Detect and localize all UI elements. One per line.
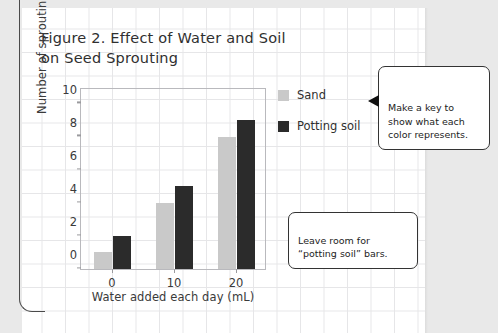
y-tick-label: 2	[70, 215, 77, 229]
figure-title: Figure 2. Effect of Water and Soil on Se…	[41, 28, 291, 68]
plot-area: 0246810 01020	[80, 88, 266, 270]
bar-group	[156, 89, 193, 269]
bar-series-container	[81, 89, 265, 269]
bar-potting-soil	[113, 236, 131, 269]
x-tick-label: 20	[229, 276, 244, 290]
callout-make-a-key: Make a key to show what each color repre…	[378, 66, 490, 150]
legend-item: Sand	[278, 88, 360, 102]
x-axis-label: Water added each day (mL)	[80, 290, 266, 304]
y-tick-label: 0	[70, 248, 77, 262]
callout-arrow-icon	[368, 95, 379, 107]
legend-swatch-icon	[278, 121, 289, 132]
bar-sand	[218, 137, 236, 269]
bar-potting-soil	[237, 120, 255, 269]
legend-label: Potting soil	[297, 119, 360, 133]
legend-label: Sand	[297, 88, 326, 102]
y-axis-label: Number of sprouting seeds	[35, 0, 49, 114]
y-tick-label: 4	[70, 182, 77, 196]
bar-potting-soil	[175, 186, 193, 269]
x-tick-mark	[112, 269, 113, 273]
bar-sand	[94, 252, 112, 269]
bar-group	[94, 89, 131, 269]
legend-swatch-icon	[278, 90, 289, 101]
y-tick-label: 6	[70, 149, 77, 163]
x-tick-label: 10	[167, 276, 182, 290]
bar-sand	[156, 203, 174, 269]
callout-text: Leave room for “potting soil” bars.	[298, 235, 388, 260]
chart-legend: SandPotting soil	[278, 88, 360, 150]
callout-text: Make a key to show what each color repre…	[388, 102, 468, 140]
x-tick-mark	[236, 269, 237, 273]
x-tick-mark	[174, 269, 175, 273]
legend-item: Potting soil	[278, 119, 360, 133]
figure-worksheet: Figure 2. Effect of Water and Soil on Se…	[0, 0, 498, 333]
page-right-edge	[425, 8, 428, 333]
x-tick-label: 0	[108, 276, 115, 290]
callout-leave-room: Leave room for “potting soil” bars.	[288, 212, 418, 269]
y-tick-label: 10	[62, 83, 77, 97]
y-tick-label: 8	[70, 116, 77, 130]
bar-group	[218, 89, 255, 269]
bar-chart: Number of sprouting seeds 0246810 01020 …	[41, 84, 273, 304]
